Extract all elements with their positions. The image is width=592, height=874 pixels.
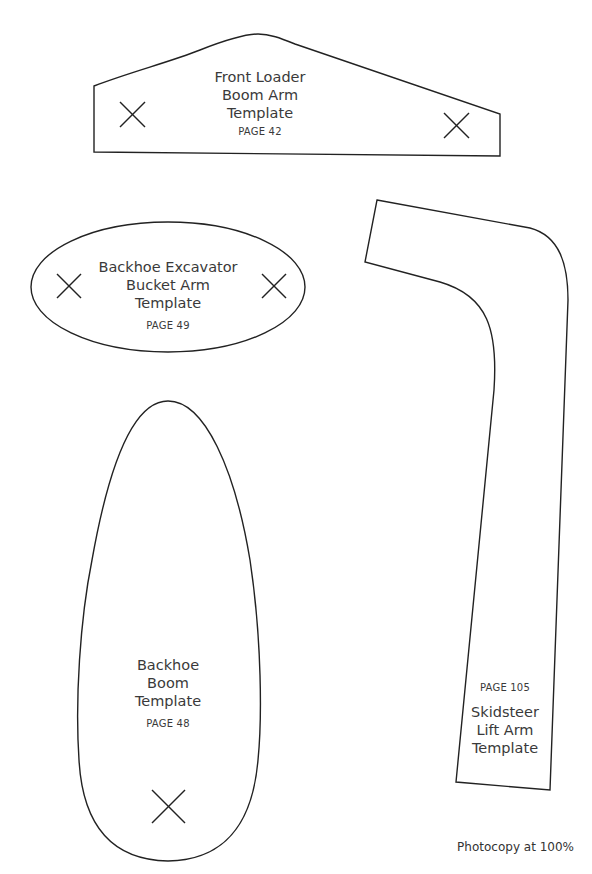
- title-line: Boom Arm: [190, 86, 330, 104]
- cross-mark-icon: [152, 790, 185, 823]
- title-line: Template: [460, 739, 550, 757]
- photocopy-note: Photocopy at 100%: [457, 840, 574, 854]
- front-loader-label: Front Loader Boom Arm Template PAGE 42: [190, 68, 330, 139]
- backhoe-boom-outline: [78, 401, 261, 861]
- title-line: Template: [118, 692, 218, 710]
- title-line: Lift Arm: [460, 721, 550, 739]
- page-ref: PAGE 42: [190, 126, 330, 139]
- title-line: Skidsteer: [460, 703, 550, 721]
- page-ref: PAGE 49: [88, 320, 248, 333]
- title-line: Template: [190, 104, 330, 122]
- backhoe-excavator-label: Backhoe Excavator Bucket Arm Template PA…: [88, 258, 248, 333]
- cross-mark-icon: [262, 274, 286, 298]
- title-line: Backhoe: [118, 656, 218, 674]
- cross-mark-icon: [57, 274, 81, 298]
- cross-mark-icon: [120, 102, 145, 127]
- title-line: Bucket Arm: [88, 276, 248, 294]
- title-line: Boom: [118, 674, 218, 692]
- page-ref: PAGE 48: [118, 718, 218, 731]
- title-line: Front Loader: [190, 68, 330, 86]
- title-line: Backhoe Excavator: [88, 258, 248, 276]
- skidsteer-label: PAGE 105 Skidsteer Lift Arm Template: [460, 682, 550, 757]
- title-line: Template: [88, 294, 248, 312]
- cross-mark-icon: [444, 113, 469, 138]
- page-ref: PAGE 105: [460, 682, 550, 695]
- backhoe-boom-label: Backhoe Boom Template PAGE 48: [118, 656, 218, 731]
